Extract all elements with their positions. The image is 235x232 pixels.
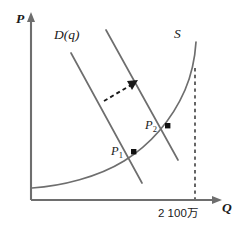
supply-curve-label: S <box>174 26 181 41</box>
demand-curve-initial-group <box>71 53 142 183</box>
demand-curve-shifted <box>106 30 178 160</box>
y-axis-label: P <box>16 11 25 26</box>
equilibrium-point-1-label: P1 <box>110 144 123 160</box>
supply-curve <box>32 42 196 188</box>
equilibrium-point-1-label-sub: 1 <box>119 150 123 160</box>
demand-curve-shifted-group <box>106 30 178 160</box>
y-axis-arrowhead <box>27 12 35 22</box>
demand-shift-arrow <box>104 85 131 101</box>
demand-shift-arrow-group <box>104 80 138 101</box>
equilibrium-point-2-label-base: P <box>144 118 153 132</box>
equilibrium-point-2-marker <box>165 123 170 128</box>
economics-figure: P Q D(q) S P1 P2 2 100万 <box>0 0 235 232</box>
x-axis-label: Q <box>222 200 232 215</box>
demand-curve-label: D(q) <box>53 27 80 42</box>
labels-group: P Q D(q) S P1 P2 2 100万 <box>16 11 232 219</box>
supply-demand-chart: P Q D(q) S P1 P2 2 100万 <box>0 0 235 232</box>
x-axis-tick-label: 2 100万 <box>158 207 198 219</box>
equilibrium-point-1-marker <box>131 149 136 154</box>
supply-curve-group <box>32 42 196 188</box>
x-axis-arrowhead <box>212 196 222 204</box>
demand-curve-initial <box>71 53 142 183</box>
equilibrium-point-2-label: P2 <box>144 118 157 134</box>
equilibrium-point-1-label-base: P <box>110 144 119 158</box>
equilibrium-point-2-label-sub: 2 <box>153 124 157 134</box>
